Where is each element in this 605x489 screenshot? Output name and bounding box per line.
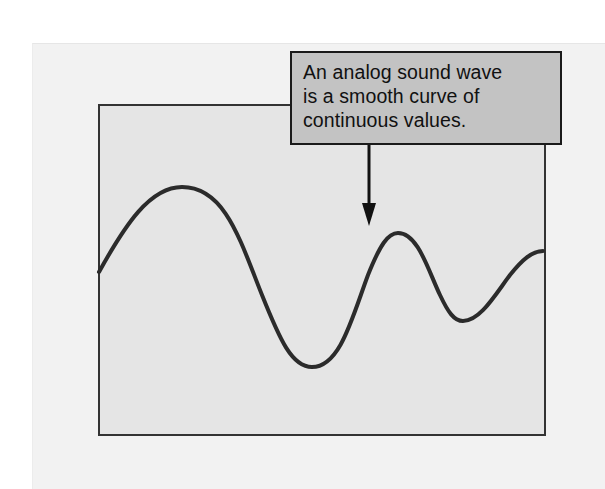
callout-line-3: continuous values. [303,108,553,132]
callout-text: An analog sound wave is a smooth curve o… [303,60,553,132]
callout-line-1: An analog sound wave [303,60,553,84]
analog-wave-curve [99,187,543,367]
callout-line-2: is a smooth curve of [303,84,553,108]
callout-box: An analog sound wave is a smooth curve o… [290,51,562,145]
callout-arrow-head [362,203,376,226]
